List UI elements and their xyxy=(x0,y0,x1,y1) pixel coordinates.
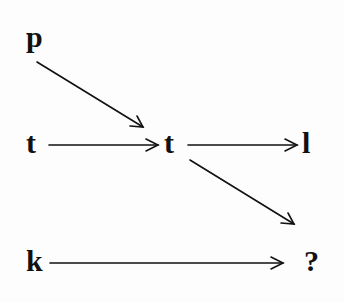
arrow-k-to-question xyxy=(50,257,283,269)
arrow-t-to-l xyxy=(188,139,297,151)
arrow-t-to-t xyxy=(49,139,158,151)
node-l: l xyxy=(302,128,310,158)
node-unknown: ? xyxy=(304,246,319,276)
node-t-center: t xyxy=(164,128,174,158)
arrow-t-to-question xyxy=(190,160,294,224)
node-t-left: t xyxy=(26,128,36,158)
node-p: p xyxy=(26,22,43,52)
diagram-canvas: p t t l k ? xyxy=(0,0,344,302)
arrow-p-to-t xyxy=(37,62,143,127)
node-k: k xyxy=(26,246,43,276)
